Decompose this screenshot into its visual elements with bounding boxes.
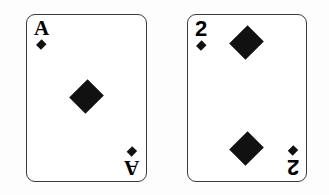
diamond-pip-icon [233, 27, 260, 58]
card-two-of-diamonds[interactable]: 2 2 [187, 14, 307, 182]
diamond-pip-icon [73, 81, 100, 112]
rank-index-top-left: A [34, 19, 49, 37]
diamond-pip-icon [233, 133, 260, 164]
card-corner-bottom-right: 2 [287, 146, 299, 177]
card-corner-top-left: 2 [195, 19, 207, 50]
rank-index-bottom-right: 2 [287, 158, 299, 177]
rank-index-top-left: 2 [195, 19, 207, 38]
diamond-pip-icon [127, 147, 135, 157]
card-corner-top-left: A [34, 19, 49, 49]
playing-cards-scene: A A 2 2 [0, 0, 329, 195]
card-ace-of-diamonds[interactable]: A A [26, 14, 147, 182]
diamond-pip-icon [197, 40, 205, 50]
diamond-pip-icon [38, 39, 46, 49]
card-corner-bottom-right: A [124, 147, 139, 177]
diamond-pip-icon [289, 146, 297, 156]
rank-index-bottom-right: A [124, 159, 139, 177]
